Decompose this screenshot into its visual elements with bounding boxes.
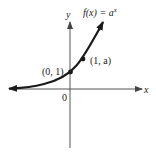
- y-axis-label: y: [65, 9, 71, 20]
- function-label-exponent: x: [113, 6, 118, 14]
- function-label-main: f(x) = a: [83, 7, 114, 19]
- point-1-a: [81, 57, 86, 62]
- curve-arrow-right-icon: [99, 22, 103, 30]
- function-label: f(x) = ax: [83, 6, 118, 19]
- origin-label: 0: [62, 92, 67, 103]
- exponential-curve: [12, 24, 102, 89]
- x-axis-label: x: [143, 84, 149, 95]
- point-0-1: [68, 70, 73, 75]
- point-label-0-1: (0, 1): [42, 66, 64, 78]
- exponential-graph: y x 0 (0, 1) (1, a) f(x) = ax: [0, 0, 156, 159]
- point-label-1-a: (1, a): [90, 55, 111, 67]
